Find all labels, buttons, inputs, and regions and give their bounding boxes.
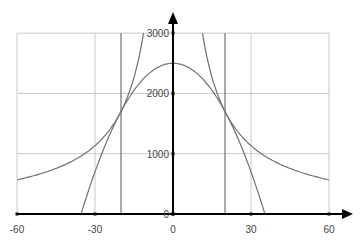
x-tick-labels: -60-3003060 [10, 224, 335, 235]
y-tick-label: 3000 [147, 28, 170, 39]
x-tick-label: 30 [245, 224, 257, 235]
y-tick-mark [172, 92, 175, 95]
x-tick-mark [94, 213, 97, 216]
x-tick-mark [328, 213, 331, 216]
x-tick-label: -30 [88, 224, 103, 235]
y-tick-label: 2000 [147, 88, 170, 99]
x-axis-arrow-icon [342, 209, 353, 219]
y-tick-labels: 0100020003000 [147, 28, 170, 220]
axes [16, 12, 354, 219]
y-tick-label: 1000 [147, 149, 170, 160]
y-tick-mark [172, 213, 175, 216]
y-tick-label: 0 [163, 209, 169, 220]
x-tick-mark [250, 213, 253, 216]
chart: -60-3003060 0100020003000 [0, 0, 361, 245]
x-tick-mark [16, 213, 19, 216]
y-tick-mark [172, 32, 175, 35]
y-axis-arrow-icon [168, 12, 178, 24]
x-tick-label: 0 [170, 224, 176, 235]
y-tick-mark [172, 152, 175, 155]
x-tick-label: 60 [323, 224, 335, 235]
x-tick-label: -60 [10, 224, 25, 235]
